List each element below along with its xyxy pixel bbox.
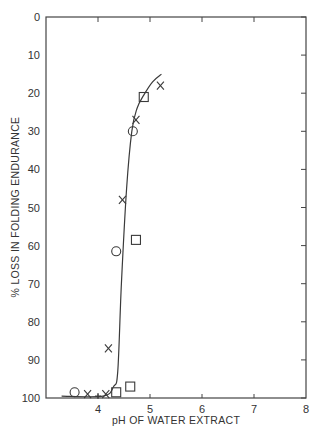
x-marker	[157, 82, 164, 90]
y-tick-label: 60	[28, 240, 40, 252]
y-tick-label: 10	[28, 49, 40, 61]
x-tick-label: 4	[95, 403, 101, 415]
circle-marker	[112, 247, 121, 256]
circle-marker	[70, 388, 79, 397]
trend-line	[62, 74, 162, 397]
y-tick-label: 40	[28, 163, 40, 175]
y-tick-label: 80	[28, 316, 40, 328]
x-tick-label: 7	[251, 403, 257, 415]
y-tick-label: 0	[34, 11, 40, 23]
y-tick-label: 70	[28, 278, 40, 290]
y-tick-label: 50	[28, 202, 40, 214]
y-axis-ticks: 0102030405060708090100	[22, 11, 306, 404]
y-tick-label: 30	[28, 125, 40, 137]
square-marker	[131, 235, 140, 244]
chart: 0102030405060708090100 45678 pH OF WATER…	[0, 0, 317, 437]
trend-curve	[62, 74, 162, 397]
x-axis-ticks: 45678	[95, 17, 309, 415]
data-markers	[70, 82, 164, 400]
square-marker	[112, 388, 121, 397]
x-axis-title: pH OF WATER EXTRACT	[112, 414, 240, 426]
y-axis-title: % LOSS IN FOLDING ENDURANCE	[9, 117, 21, 298]
x-marker	[119, 196, 126, 204]
y-tick-label: 100	[22, 392, 40, 404]
y-tick-label: 20	[28, 87, 40, 99]
plot-frame	[46, 17, 306, 398]
y-tick-label: 90	[28, 354, 40, 366]
square-marker	[126, 382, 135, 391]
x-tick-label: 8	[303, 403, 309, 415]
x-marker	[105, 344, 112, 352]
plot-border	[46, 17, 306, 398]
